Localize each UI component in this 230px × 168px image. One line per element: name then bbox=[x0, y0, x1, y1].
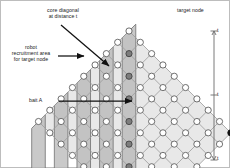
lattice-node bbox=[115, 39, 121, 45]
lattice-node bbox=[194, 141, 200, 147]
lattice-node bbox=[194, 118, 200, 124]
lattice-node bbox=[103, 73, 109, 79]
bait-node bbox=[126, 164, 132, 168]
bait-node bbox=[126, 73, 132, 79]
lattice-node bbox=[205, 152, 211, 158]
scale-label-bottom: t bbox=[217, 155, 219, 161]
lattice-node bbox=[103, 164, 109, 168]
lattice-node bbox=[115, 62, 121, 68]
arrow-core-diagonal bbox=[61, 25, 109, 66]
scale-label-middle: t bbox=[217, 91, 219, 97]
lattice-node bbox=[182, 84, 188, 90]
bait-node bbox=[126, 141, 132, 147]
lattice-node bbox=[69, 152, 75, 158]
lattice-node bbox=[69, 130, 75, 136]
lattice-node bbox=[92, 107, 98, 113]
lattice-node bbox=[149, 141, 155, 147]
lattice-node bbox=[115, 84, 121, 90]
lattice-node bbox=[103, 141, 109, 147]
lattice-node bbox=[103, 51, 109, 57]
lattice-node bbox=[137, 62, 143, 68]
label-bait: bait A bbox=[29, 97, 42, 103]
target-node bbox=[228, 130, 230, 136]
lattice-node bbox=[149, 164, 155, 168]
lattice-node bbox=[160, 84, 166, 90]
lattice-node bbox=[171, 73, 177, 79]
lattice-node bbox=[149, 73, 155, 79]
lattice-node bbox=[171, 164, 177, 168]
lattice-node bbox=[115, 107, 121, 113]
lattice-node bbox=[126, 28, 132, 34]
lattice-node bbox=[115, 130, 121, 136]
lattice-node bbox=[92, 130, 98, 136]
lattice-node bbox=[92, 152, 98, 158]
lattice-node bbox=[69, 84, 75, 90]
lattice-diagram-svg bbox=[1, 1, 230, 168]
lattice-node bbox=[205, 130, 211, 136]
core-diagonal-band-1 bbox=[100, 47, 114, 168]
lattice-node bbox=[160, 152, 166, 158]
lattice-node bbox=[171, 118, 177, 124]
lattice-node bbox=[194, 96, 200, 102]
lattice-node bbox=[182, 152, 188, 158]
lattice-node bbox=[149, 51, 155, 57]
lattice-node bbox=[194, 164, 200, 168]
lattice-node bbox=[92, 62, 98, 68]
figure-canvas: core diagonal at distance t robot recrui… bbox=[0, 0, 230, 168]
lattice-node bbox=[137, 152, 143, 158]
label-recruitment-area: robot recruitment area for target node bbox=[3, 44, 59, 63]
lattice-node bbox=[216, 141, 222, 147]
lattice-node bbox=[115, 152, 121, 158]
lattice-node bbox=[160, 130, 166, 136]
label-target-node: target node bbox=[177, 7, 204, 13]
lattice-node bbox=[216, 118, 222, 124]
lattice-node bbox=[47, 130, 53, 136]
lattice-node bbox=[47, 107, 53, 113]
lattice-node bbox=[81, 118, 87, 124]
lattice-node bbox=[103, 118, 109, 124]
lattice-group bbox=[32, 24, 230, 168]
lattice-node bbox=[137, 39, 143, 45]
lattice-node bbox=[160, 107, 166, 113]
bait-node bbox=[126, 118, 132, 124]
lattice-node bbox=[171, 96, 177, 102]
scale-label-top: t bbox=[217, 27, 219, 33]
lattice-node bbox=[182, 130, 188, 136]
lattice-node bbox=[160, 62, 166, 68]
lattice-node bbox=[81, 73, 87, 79]
lattice-node bbox=[81, 164, 87, 168]
lattice-node bbox=[92, 84, 98, 90]
lattice-node bbox=[35, 118, 41, 124]
label-core-diagonal-line2: at distance t bbox=[25, 13, 101, 19]
lattice-node bbox=[205, 107, 211, 113]
lattice-node bbox=[58, 118, 64, 124]
label-core-diagonal: core diagonal at distance t bbox=[25, 7, 101, 19]
lattice-node bbox=[137, 130, 143, 136]
lattice-node bbox=[149, 118, 155, 124]
lattice-node bbox=[149, 96, 155, 102]
bait-node bbox=[126, 51, 132, 57]
lattice-node bbox=[81, 141, 87, 147]
lattice-node bbox=[137, 84, 143, 90]
label-recruitment-line3: for target node bbox=[3, 56, 59, 62]
lattice-node bbox=[58, 141, 64, 147]
lattice-node bbox=[171, 141, 177, 147]
lattice-node bbox=[182, 107, 188, 113]
lattice-node bbox=[69, 107, 75, 113]
lattice-node bbox=[137, 107, 143, 113]
